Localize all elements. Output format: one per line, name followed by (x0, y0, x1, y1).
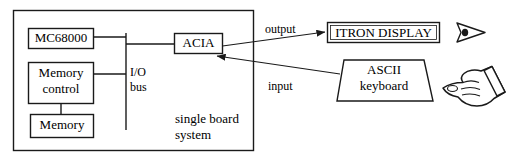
io-bus-label-line1: I/O (130, 66, 146, 79)
edge-output-label: output (265, 23, 296, 36)
edge-input-label: input (268, 80, 293, 93)
single-board-system-label-line1: single board (175, 112, 239, 127)
node-memory-control-label-line2: control (28, 82, 94, 97)
node-memory-control-label-line1: Memory (28, 66, 94, 81)
single-board-system-label-line2: system (175, 128, 211, 143)
node-memory-label: Memory (30, 118, 94, 133)
eye-icon (457, 23, 485, 42)
diagram-canvas: MC68000 Memory control Memory ACIA ITRON… (0, 0, 513, 163)
pointing-hand-icon (443, 67, 505, 107)
node-mc68000-label: MC68000 (28, 31, 94, 46)
node-itron-display-label: ITRON DISPLAY (330, 26, 437, 41)
io-bus-label-line2: bus (130, 81, 147, 94)
edge-input (217, 56, 340, 74)
node-ascii-keyboard-label-line1: ASCII (340, 63, 428, 78)
node-acia-label: ACIA (174, 36, 223, 51)
node-ascii-keyboard-label-line2: keyboard (340, 79, 428, 94)
